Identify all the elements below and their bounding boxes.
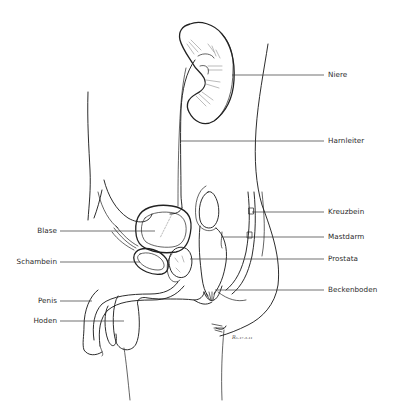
pubic-bone [112,226,168,274]
penis-urethra [83,282,184,356]
torso-outline-left [88,92,102,220]
label-harnleiter: Harnleiter [328,136,364,145]
pelvic-floor [194,286,246,304]
signature: Rₙ.₁₇.₃.₁₁ [231,334,253,340]
abdominal-wall [98,180,152,228]
torso-outline-right [220,44,279,336]
rectum [195,186,226,296]
anatomy-diagram: Rₙ.₁₇.₃.₁₁ [0,0,393,406]
label-hoden: Hoden [33,316,57,325]
label-penis: Penis [38,296,57,305]
label-niere: Niere [328,70,347,79]
sacrum [226,192,264,294]
testis [105,292,204,400]
label-beckenboden: Beckenboden [328,285,377,294]
label-schambein: Schambein [17,257,57,266]
label-blase: Blase [37,226,57,235]
label-mastdarm: Mastdarm [328,232,364,241]
label-prostata: Prostata [328,254,358,263]
ureter [170,60,195,214]
bladder [136,205,191,252]
label-kreuzbein: Kreuzbein [328,207,364,216]
